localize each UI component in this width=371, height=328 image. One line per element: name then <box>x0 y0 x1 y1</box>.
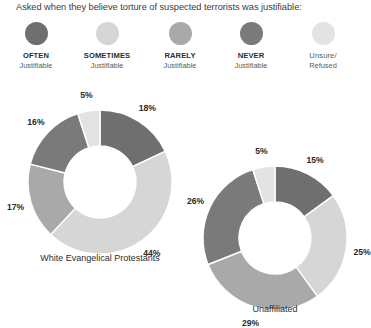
donut-caption-right: Unaffiliated <box>189 303 361 315</box>
donut-slice-percent-label: 17% <box>7 202 24 212</box>
legend-label-rarely: RARELY <box>144 51 216 61</box>
donut-slice-percent-label: 29% <box>242 318 259 328</box>
chart-legend: OFTEN Justifiable SOMETIMES Justifiable … <box>0 22 361 78</box>
donut-slice-percent-label: 26% <box>187 196 204 206</box>
donut-chart-unaffiliated: 15%25%29%26%5% <box>189 152 361 324</box>
legend-swatch-sometimes-circle-icon <box>96 22 119 45</box>
page-title: Asked when they believe torture of suspe… <box>16 1 356 13</box>
legend-item-sometimes: SOMETIMES Justifiable <box>71 22 143 70</box>
donut-slice[interactable] <box>203 170 264 265</box>
legend-sublabel-often: Justifiable <box>0 61 72 71</box>
legend-swatch-unsure-circle-icon <box>312 22 335 45</box>
legend-sublabel-sometimes: Justifiable <box>71 61 143 71</box>
legend-item-unsure: Unsure/ Refused <box>287 22 359 70</box>
legend-item-often: OFTEN Justifiable <box>0 22 72 70</box>
donut-slice-percent-label: 18% <box>139 103 156 113</box>
legend-swatch-rarely-circle-icon <box>169 22 192 45</box>
legend-item-never: NEVER Justifiable <box>215 22 287 70</box>
legend-swatch-often-circle-icon <box>25 22 48 45</box>
donut-slice-percent-label: 16% <box>27 117 44 127</box>
legend-sublabel-rarely: Justifiable <box>144 61 216 71</box>
legend-label-often: OFTEN <box>0 51 72 61</box>
legend-sublabel-unsure: Refused <box>287 61 359 71</box>
donut-slice[interactable] <box>208 251 317 310</box>
donut-slice-percent-label: 25% <box>353 247 370 257</box>
donut-slice-percent-label: 15% <box>306 155 323 165</box>
donut-slice-percent-label: 5% <box>255 146 267 156</box>
legend-sublabel-never: Justifiable <box>215 61 287 71</box>
donut-chart-right-svg <box>189 152 361 324</box>
donut-caption-left: White Evangelical Protestants <box>14 252 186 264</box>
legend-label-sometimes: SOMETIMES <box>71 51 143 61</box>
donut-slice-percent-label: 5% <box>80 90 92 100</box>
legend-swatch-never-circle-icon <box>240 22 263 45</box>
legend-label-unsure: Unsure/ <box>287 51 359 61</box>
legend-label-never: NEVER <box>215 51 287 61</box>
donut-chart-white-evangelical-protestants: 18%44%17%16%5% <box>14 96 186 268</box>
legend-item-rarely: RARELY Justifiable <box>144 22 216 70</box>
